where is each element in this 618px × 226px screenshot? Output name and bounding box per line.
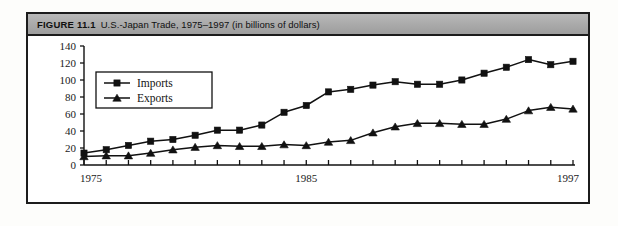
y-axis-tick-label: 20 [65,142,77,154]
y-axis-tick-label: 120 [60,57,77,69]
y-axis-tick-label: 40 [65,125,77,137]
chart-plot-area: 020406080100120140 197519851997 ImportsE… [28,36,588,204]
legend-label-exports: Exports [137,92,173,105]
data-point-imports [259,122,265,128]
data-point-imports [281,109,287,115]
data-point-imports [392,79,398,85]
data-point-imports [525,57,531,63]
figure-title-bar: FIGURE 11.1 U.S.-Japan Trade, 1975–1997 … [28,14,588,36]
data-point-imports [125,142,131,148]
data-point-imports [325,89,331,95]
x-axis: 197519851997 [80,160,580,184]
data-point-imports [459,77,465,83]
series-line-exports [84,107,573,156]
line-chart: 020406080100120140 197519851997 ImportsE… [28,36,588,204]
legend-label-imports: Imports [137,77,173,90]
data-point-imports [570,58,576,64]
y-axis-tick-label: 140 [60,40,77,52]
data-point-imports [437,81,443,87]
y-axis: 020406080100120140 [60,40,85,171]
data-point-imports [481,70,487,76]
x-axis-tick-label: 1985 [295,172,318,184]
figure-number-label: FIGURE 11.1 [37,19,96,30]
data-point-imports [214,127,220,133]
figure-root: FIGURE 11.1 U.S.-Japan Trade, 1975–1997 … [0,0,618,226]
chart-legend: ImportsExports [96,72,212,108]
x-axis-tick-label: 1975 [80,172,103,184]
data-point-imports [236,127,242,133]
data-point-imports [348,86,354,92]
series-exports [80,103,577,159]
data-point-exports [502,115,510,122]
data-point-imports [370,82,376,88]
legend-marker-imports [114,80,120,86]
data-point-imports [414,81,420,87]
data-point-imports [303,102,309,108]
y-axis-tick-label: 0 [71,159,77,171]
x-axis-tick-label: 1997 [557,172,580,184]
data-point-imports [148,138,154,144]
data-point-imports [192,132,198,138]
data-point-imports [170,136,176,142]
figure-box: FIGURE 11.1 U.S.-Japan Trade, 1975–1997 … [26,12,590,204]
data-point-imports [503,64,509,70]
y-axis-tick-label: 60 [65,108,77,120]
data-point-imports [548,62,554,68]
y-axis-tick-label: 100 [60,74,77,86]
y-axis-tick-label: 80 [65,91,77,103]
page-title: U.S.-Japan Trade, 1975–1997 (in billions… [101,19,320,30]
